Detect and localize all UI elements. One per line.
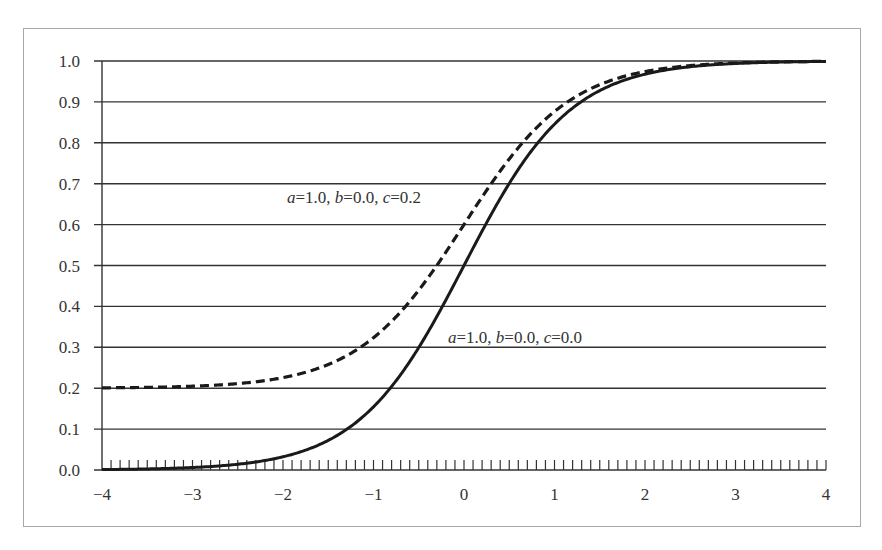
y-tick-label: 0.0 <box>59 461 80 480</box>
y-tick-label: 0.7 <box>59 175 81 194</box>
y-tick-label: 0.3 <box>59 338 80 357</box>
irt-curve-chart: 0.00.10.20.30.40.50.60.70.80.91.0 −4−3−2… <box>0 0 882 550</box>
horizontal-gridlines <box>94 61 826 470</box>
x-tick-label: 3 <box>731 485 740 504</box>
y-tick-label: 0.2 <box>59 379 80 398</box>
y-tick-label: 0.8 <box>59 134 80 153</box>
y-tick-label: 0.9 <box>59 93 80 112</box>
x-tick-label: −4 <box>93 485 112 504</box>
x-tick-label: 0 <box>460 485 469 504</box>
y-tick-label: 0.4 <box>59 297 81 316</box>
curve-label-dashed: a=1.0, b=0.0, c=0.2 <box>287 188 421 207</box>
x-tick-label: 4 <box>822 485 831 504</box>
y-tick-label: 1.0 <box>59 52 80 71</box>
curve-label-solid: a=1.0, b=0.0, c=0.0 <box>448 328 582 347</box>
x-tick-label: −2 <box>274 485 292 504</box>
x-tick-label: −3 <box>183 485 201 504</box>
y-tick-label: 0.1 <box>59 420 80 439</box>
y-tick-label: 0.5 <box>59 257 80 276</box>
y-tick-label: 0.6 <box>59 216 80 235</box>
x-tick-label: 2 <box>641 485 650 504</box>
x-tick-label: −1 <box>364 485 382 504</box>
x-tick-label: 1 <box>550 485 559 504</box>
